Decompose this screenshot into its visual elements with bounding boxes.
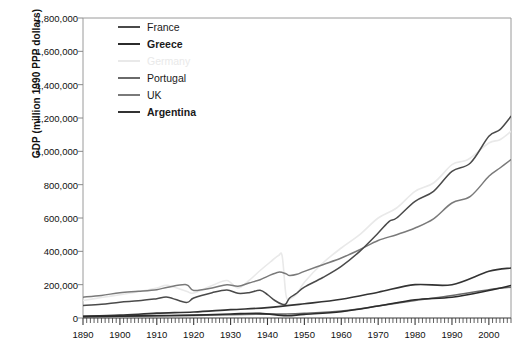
legend-label: Germany xyxy=(147,56,190,67)
x-tick-label: 1940 xyxy=(257,329,278,340)
legend-swatch-argentina-icon xyxy=(118,111,140,113)
legend-item-greece[interactable]: Greece xyxy=(118,37,196,51)
x-axis-minor-ticks xyxy=(83,318,511,325)
x-tick-label: 1890 xyxy=(72,329,93,340)
x-tick-label: 1970 xyxy=(368,329,389,340)
x-tick-label: 1980 xyxy=(404,329,425,340)
series-line-uk xyxy=(83,160,511,298)
legend-item-portugal[interactable]: Portugal xyxy=(118,71,196,85)
legend-label: UK xyxy=(147,90,162,101)
legend-item-argentina[interactable]: Argentina xyxy=(118,105,196,119)
series-group xyxy=(83,116,511,316)
series-line-france xyxy=(83,116,511,305)
legend-label: Portugal xyxy=(147,73,186,84)
x-tick-label: 1990 xyxy=(441,329,462,340)
series-line-portugal xyxy=(83,287,511,316)
legend-label: Argentina xyxy=(147,107,196,118)
legend-swatch-portugal-icon xyxy=(118,77,140,79)
x-tick-label: 1900 xyxy=(109,329,130,340)
legend-item-germany[interactable]: Germany xyxy=(118,54,196,68)
chart-container: GDP (million 1990 PPP dollars) 0200,0004… xyxy=(0,0,519,351)
legend-label: Greece xyxy=(147,39,183,50)
series-line-germany xyxy=(83,131,511,300)
legend-swatch-greece-icon xyxy=(118,43,140,45)
x-tick-label: 1910 xyxy=(146,329,167,340)
plot-area xyxy=(0,0,519,351)
x-tick-label: 1950 xyxy=(294,329,315,340)
x-tick-label: 1920 xyxy=(183,329,204,340)
legend-item-uk[interactable]: UK xyxy=(118,88,196,102)
chart-legend: FranceGreeceGermanyPortugalUKArgentina xyxy=(118,20,196,119)
legend-swatch-uk-icon xyxy=(118,94,140,96)
legend-item-france[interactable]: France xyxy=(118,20,196,34)
legend-label: France xyxy=(147,22,180,33)
legend-swatch-germany-icon xyxy=(118,60,140,62)
x-tick-label: 1960 xyxy=(331,329,352,340)
x-tick-label: 2000 xyxy=(478,329,499,340)
legend-swatch-france-icon xyxy=(118,26,140,28)
x-tick-label: 1930 xyxy=(220,329,241,340)
y-axis-ticks xyxy=(78,18,83,318)
